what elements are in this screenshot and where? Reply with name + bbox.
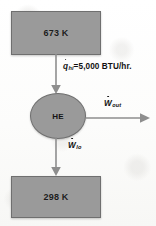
diagram-canvas: 673 K qhi=5,000 BTU/hr. HE Wout Wlo 298 … xyxy=(0,0,156,226)
work-out-subscript: out xyxy=(112,102,121,108)
dot-accent-icon xyxy=(65,59,67,61)
work-low-label: Wlo xyxy=(68,141,81,150)
work-out-arrow xyxy=(86,108,152,128)
heat-in-label: qhi=5,000 BTU/hr. xyxy=(63,62,132,71)
work-low-subscript: lo xyxy=(76,144,81,150)
work-low-symbol: W xyxy=(68,141,76,150)
work-out-label: Wout xyxy=(104,99,121,108)
work-low-arrow xyxy=(44,137,70,179)
heat-engine-label: HE xyxy=(52,112,64,121)
heat-in-value: 5,000 xyxy=(78,62,99,71)
hot-reservoir-box: 673 K xyxy=(11,11,101,55)
dot-accent-icon xyxy=(107,96,109,98)
heat-in-unit: BTU/hr. xyxy=(102,62,132,71)
heat-in-symbol: q xyxy=(63,62,69,71)
cold-reservoir-temperature: 298 K xyxy=(43,192,68,202)
cold-reservoir-box: 298 K xyxy=(11,176,101,218)
hot-reservoir-temperature: 673 K xyxy=(43,28,68,38)
heat-engine-ellipse: HE xyxy=(30,93,86,139)
dot-accent-icon xyxy=(71,138,73,140)
heat-in-arrow xyxy=(44,54,70,96)
work-out-symbol: W xyxy=(104,99,112,108)
